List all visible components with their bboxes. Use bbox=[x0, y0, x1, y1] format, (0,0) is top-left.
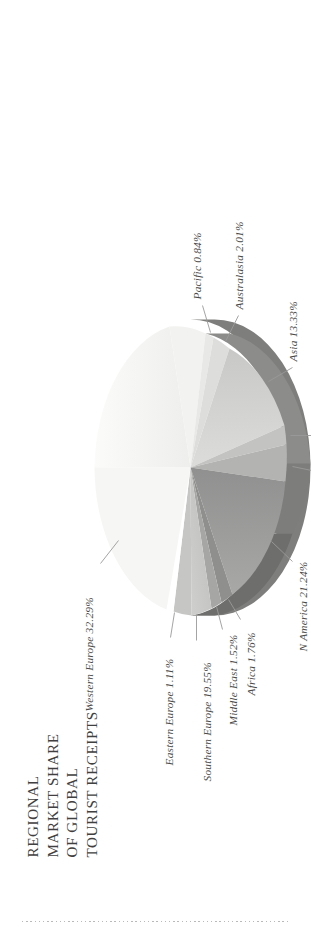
page-title: REGIONAL MARKET SHARE OF GLOBAL TOURIST … bbox=[22, 711, 100, 857]
dotted-rule bbox=[22, 921, 290, 922]
figure-canvas: Western Europe 32.29% Pacific 0.84% Aust… bbox=[0, 0, 311, 933]
title-region: REGIONAL MARKET SHARE OF GLOBAL TOURIST … bbox=[0, 0, 311, 933]
